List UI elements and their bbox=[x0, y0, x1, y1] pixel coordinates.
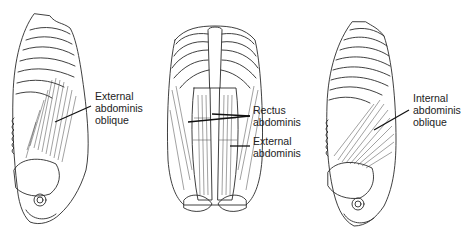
label-rectus-abdominis: Rectus abdominis bbox=[253, 104, 301, 128]
leader-line bbox=[374, 110, 409, 130]
label-line: oblique bbox=[413, 116, 461, 128]
label-internal-abdominis-oblique: Internal abdominis oblique bbox=[413, 92, 461, 128]
label-line: oblique bbox=[95, 114, 143, 126]
label-line: Internal bbox=[413, 92, 461, 104]
label-line: External bbox=[253, 135, 301, 147]
label-line: abdominis bbox=[413, 104, 461, 116]
label-line: Rectus bbox=[253, 104, 301, 116]
label-external-abdominis-oblique: External abdominis oblique bbox=[95, 90, 143, 126]
figure-internal-oblique-lateral: Internal abdominis oblique bbox=[310, 0, 475, 232]
label-line: abdominis bbox=[253, 116, 301, 128]
figure-external-oblique-lateral: External abdominis oblique bbox=[0, 0, 160, 232]
label-line: abdominis bbox=[253, 147, 301, 159]
figure-rectus-external-anterior: Rectus abdominis External abdominis bbox=[150, 0, 320, 232]
leader-line bbox=[55, 106, 91, 122]
label-line: External bbox=[95, 90, 143, 102]
label-external-abdominis: External abdominis bbox=[253, 135, 301, 159]
label-line: abdominis bbox=[95, 102, 143, 114]
leader-line bbox=[212, 114, 250, 116]
